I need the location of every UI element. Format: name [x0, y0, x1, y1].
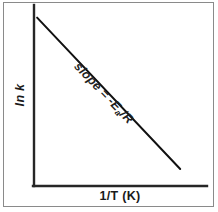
plot-area: ln k 1/T (K) slope = -Ea/R [0, 0, 218, 212]
y-axis-label: ln k [0, 83, 43, 107]
x-axis-label: 1/T (K) [33, 189, 207, 203]
arrhenius-plot-figure: ln k 1/T (K) slope = -Ea/R [0, 0, 218, 212]
